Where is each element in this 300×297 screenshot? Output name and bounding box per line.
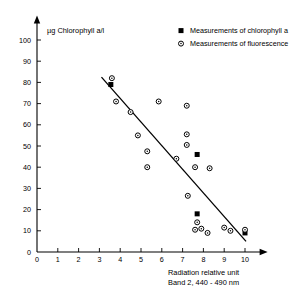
- y-axis-tick-label: 30: [23, 184, 31, 193]
- x-axis-title-line1: Radiation relative unit: [168, 268, 239, 277]
- scatter-chart: 0123456789100102030405060708090100 Measu…: [0, 0, 300, 297]
- x-axis-tick-label: 0: [35, 255, 39, 264]
- y-axis-tick-label: 80: [23, 78, 31, 87]
- axis-titles-group: µg Chlorophyll a/lRadiation relative uni…: [47, 26, 239, 287]
- data-point-circle: [109, 76, 114, 81]
- ticks-group: [37, 40, 245, 252]
- data-point-circle: [207, 166, 212, 171]
- data-point-square: [108, 82, 113, 87]
- legend-marker-square: [179, 28, 184, 33]
- x-axis-arrow: [260, 249, 268, 255]
- y-axis-tick-label: 100: [19, 36, 31, 45]
- x-axis-tick-label: 9: [222, 255, 226, 264]
- x-axis-tick-label: 3: [97, 255, 101, 264]
- data-point-circle: [145, 165, 150, 170]
- x-axis-tick-label: 2: [77, 255, 81, 264]
- y-axis-arrow: [34, 15, 40, 23]
- x-axis-tick-label: 5: [139, 255, 143, 264]
- data-point-circle: [243, 227, 248, 232]
- data-point-circle: [222, 225, 227, 230]
- chart-page: 0123456789100102030405060708090100 Measu…: [0, 0, 300, 297]
- y-axis-tick-label: 10: [23, 226, 31, 235]
- data-point-circle: [228, 228, 233, 233]
- data-point-circle: [135, 133, 140, 138]
- y-axis-tick-label: 20: [23, 205, 31, 214]
- data-point-circle: [174, 156, 179, 161]
- data-points-group: [108, 76, 247, 236]
- chart-legend: Measurements of chlorophyll aMeasurement…: [179, 26, 289, 48]
- y-axis-tick-label: 0: [27, 248, 31, 257]
- y-axis-tick-label: 60: [23, 120, 31, 129]
- data-point-circle: [184, 132, 189, 137]
- axes-group: [34, 15, 268, 255]
- data-point-circle: [128, 110, 133, 115]
- data-point-circle: [156, 99, 161, 104]
- series-measurements-of-fluorescence: [109, 76, 247, 236]
- legend-item: Measurements of fluorescence: [179, 39, 289, 48]
- x-axis-tick-label: 4: [118, 255, 122, 264]
- data-point-square: [195, 152, 200, 157]
- data-point-circle: [193, 165, 198, 170]
- legend-marker-circle: [179, 41, 184, 46]
- x-axis-tick-label: 7: [181, 255, 185, 264]
- data-point-circle: [205, 230, 210, 235]
- y-axis-tick-label: 40: [23, 163, 31, 172]
- x-axis-tick-label: 6: [160, 255, 164, 264]
- tick-labels-group: 0123456789100102030405060708090100: [19, 36, 249, 264]
- x-axis-title-line2: Band 2, 440 - 490 nm: [168, 278, 239, 287]
- legend-item: Measurements of chlorophyll a: [179, 26, 288, 35]
- legend-item-label: Measurements of fluorescence: [190, 39, 288, 48]
- data-point-circle: [195, 220, 200, 225]
- y-axis-title: µg Chlorophyll a/l: [47, 26, 105, 35]
- data-point-circle: [199, 226, 204, 231]
- data-point-circle: [184, 103, 189, 108]
- legend-item-label: Measurements of chlorophyll a: [190, 26, 288, 35]
- y-axis-tick-label: 90: [23, 57, 31, 66]
- y-axis-tick-label: 70: [23, 99, 31, 108]
- data-point-circle: [184, 142, 189, 147]
- data-point-circle: [114, 99, 119, 104]
- x-axis-tick-label: 1: [56, 255, 60, 264]
- x-axis-tick-label: 8: [201, 255, 205, 264]
- data-point-square: [195, 211, 200, 216]
- data-point-circle: [185, 193, 190, 198]
- y-axis-tick-label: 50: [23, 142, 31, 151]
- data-point-circle: [145, 149, 150, 154]
- x-axis-tick-label: 10: [241, 255, 249, 264]
- data-point-circle: [193, 227, 198, 232]
